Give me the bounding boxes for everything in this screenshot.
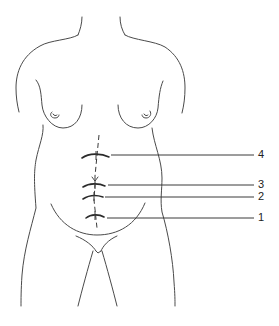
right-breast [118, 81, 163, 128]
marker-label-4: 4 [258, 149, 264, 160]
pubic-right [101, 236, 117, 251]
left-nipple [51, 112, 59, 118]
inner-left-leg [78, 251, 93, 306]
right-areola-mark [144, 114, 148, 116]
marker-label-3: 3 [258, 179, 264, 190]
marker-label-1: 1 [258, 212, 264, 223]
incision-3 [83, 184, 105, 187]
belly-curve [51, 203, 145, 235]
right-nipple [142, 111, 151, 118]
neck-left [78, 17, 82, 35]
left-breast [36, 80, 82, 128]
inner-right-leg [102, 251, 117, 306]
pubic-left [76, 236, 96, 251]
right-shoulder-arm [125, 35, 185, 113]
incision-2 [83, 196, 103, 199]
neck-right [120, 17, 125, 35]
left-shoulder-arm [16, 35, 78, 112]
left-torso-side [21, 125, 43, 306]
torso-diagram [0, 0, 279, 326]
marker-label-2: 2 [258, 191, 264, 202]
pubic-v [96, 251, 101, 253]
left-areola-mark [53, 114, 57, 116]
